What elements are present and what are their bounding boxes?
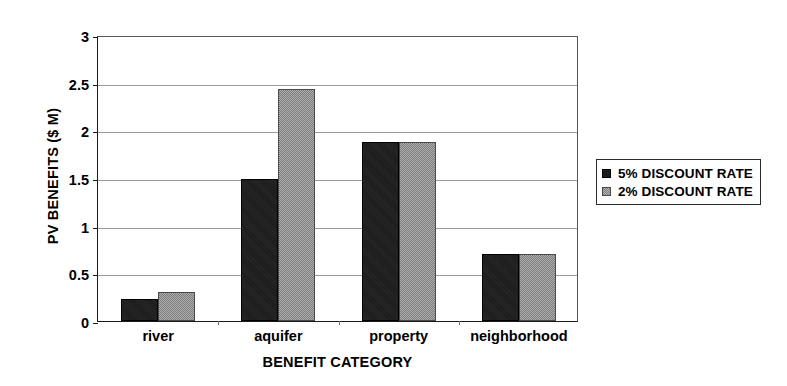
x-axis-tick-mark xyxy=(339,321,340,325)
x-axis-tick-mark xyxy=(218,321,219,325)
y-axis-tick-label: 2 xyxy=(81,124,89,140)
bar-chart-figure: PV BENEFITS ($ M) 00.511.522.53 riveraqu… xyxy=(0,0,787,386)
y-axis-tick-mark xyxy=(93,37,98,38)
bar xyxy=(519,254,556,321)
bar xyxy=(241,179,278,321)
x-axis-category-label: aquifer xyxy=(254,328,302,344)
y-axis-tick-mark xyxy=(93,180,98,181)
y-axis-tick-label: 2.5 xyxy=(69,77,89,93)
plot-area: 00.511.522.53 riveraquiferpropertyneighb… xyxy=(97,36,578,322)
y-axis-tick-label: 1.5 xyxy=(69,172,89,188)
legend-swatch-icon xyxy=(602,187,611,196)
y-axis-tick-mark xyxy=(93,85,98,86)
bar xyxy=(399,142,436,321)
legend-item[interactable]: 5% DISCOUNT RATE xyxy=(602,164,753,182)
y-axis-tick-label: 1 xyxy=(81,220,89,236)
y-axis-tick-mark xyxy=(93,323,98,324)
x-axis-category-label: neighborhood xyxy=(470,328,567,344)
y-axis-tick-mark xyxy=(93,228,98,229)
bar xyxy=(121,299,158,321)
bar xyxy=(482,254,519,321)
legend-item[interactable]: 2% DISCOUNT RATE xyxy=(602,182,753,200)
chart-legend: 5% DISCOUNT RATE2% DISCOUNT RATE xyxy=(596,159,761,205)
x-axis-category-label: river xyxy=(142,328,173,344)
bar-group xyxy=(121,37,195,321)
legend-item-label: 5% DISCOUNT RATE xyxy=(618,166,753,181)
bar xyxy=(362,142,399,321)
bar-group xyxy=(482,37,556,321)
bar-group xyxy=(362,37,436,321)
bar-group xyxy=(241,37,315,321)
x-axis-tick-mark xyxy=(459,321,460,325)
y-axis-title: PV BENEFITS ($ M) xyxy=(45,51,61,301)
y-axis-tick-label: 0.5 xyxy=(69,267,89,283)
x-axis-category-label: property xyxy=(369,328,428,344)
bar xyxy=(158,292,195,321)
y-axis-tick-label: 0 xyxy=(81,315,89,331)
x-axis-title: BENEFIT CATEGORY xyxy=(97,354,578,370)
legend-item-label: 2% DISCOUNT RATE xyxy=(618,184,753,199)
legend-swatch-icon xyxy=(602,169,611,178)
bar xyxy=(278,89,315,321)
y-axis-tick-label: 3 xyxy=(81,29,89,45)
y-axis-tick-mark xyxy=(93,132,98,133)
y-axis-tick-mark xyxy=(93,275,98,276)
